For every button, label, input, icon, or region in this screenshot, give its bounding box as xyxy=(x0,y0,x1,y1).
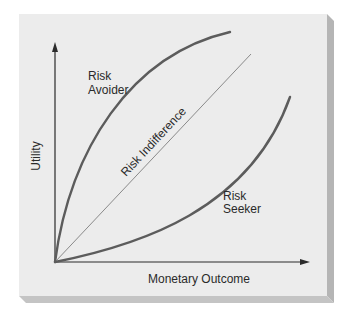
x-axis-label: Monetary Outcome xyxy=(148,272,250,286)
risk-avoider-label-line1: Risk xyxy=(88,69,112,83)
panel-shadow-right xyxy=(327,14,334,303)
panel-shadow-bottom xyxy=(19,296,334,303)
y-axis-label: Utility xyxy=(29,141,43,170)
risk-avoider-label-line2: Avoider xyxy=(88,83,128,97)
risk-seeker-label-line2: Seeker xyxy=(223,202,261,216)
risk-seeker-label-line1: Risk xyxy=(223,189,247,203)
utility-diagram: Utility Monetary Outcome Risk Avoider Ri… xyxy=(0,0,354,320)
